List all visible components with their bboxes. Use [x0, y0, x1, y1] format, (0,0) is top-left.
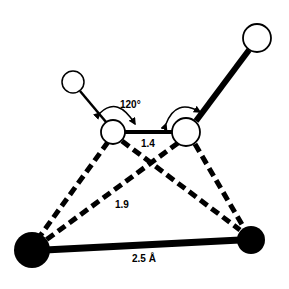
molecular-diagram: 120° 1.4 1.9 2.5 Å [0, 0, 289, 289]
dashed-bond-cright-mleft [46, 143, 178, 240]
dashed-bond-label: 1.9 [115, 199, 129, 210]
h-atom-right [243, 24, 271, 52]
metal-atom-right [237, 226, 265, 254]
ch-bond-right [196, 50, 249, 121]
c-atom-left [101, 120, 125, 144]
dashed-bonds [40, 141, 244, 240]
metal-metal-bond [45, 240, 240, 250]
dashed-bond-cleft-mright [122, 141, 240, 230]
cc-bond-label: 1.4 [141, 138, 155, 149]
ch-bond-left [80, 91, 106, 122]
h-atom-left [62, 71, 84, 93]
c-atom-right [172, 118, 200, 146]
metal-bond-label: 2.5 Å [132, 252, 156, 264]
angle-label: 120° [120, 99, 141, 110]
dashed-bond-cright-mright [195, 144, 244, 228]
metal-atom-left [14, 232, 50, 268]
